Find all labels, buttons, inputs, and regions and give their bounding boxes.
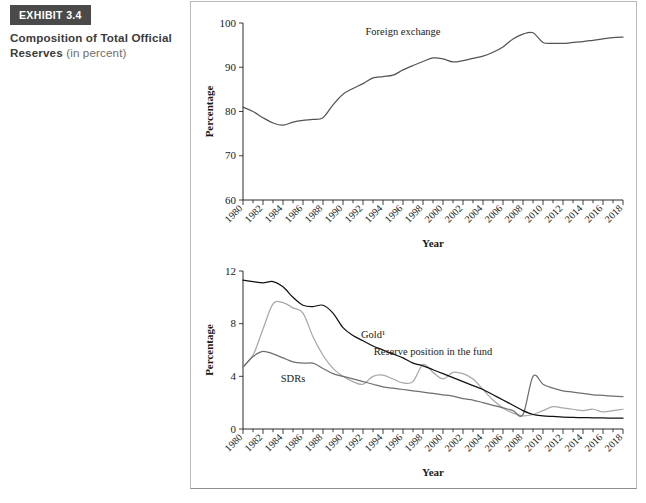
svg-text:4: 4 bbox=[231, 370, 237, 382]
svg-text:Percentage: Percentage bbox=[203, 324, 215, 376]
svg-text:1992: 1992 bbox=[342, 203, 364, 225]
svg-text:Year: Year bbox=[422, 237, 444, 249]
svg-text:2014: 2014 bbox=[562, 432, 584, 454]
svg-text:2000: 2000 bbox=[422, 203, 444, 225]
foreign-exchange-chart-svg: 6070809010019801982198419861988199019921… bbox=[191, 2, 638, 254]
svg-text:2012: 2012 bbox=[542, 203, 564, 225]
svg-text:100: 100 bbox=[220, 17, 237, 29]
svg-text:2000: 2000 bbox=[422, 432, 444, 454]
svg-text:Reserve position in the fund: Reserve position in the fund bbox=[374, 346, 493, 357]
reserves-composition-chart: 0481219801982198419861988199019921994199… bbox=[191, 254, 638, 490]
reserves-composition-chart-svg: 0481219801982198419861988199019921994199… bbox=[191, 254, 638, 490]
svg-text:1986: 1986 bbox=[282, 203, 304, 225]
svg-text:1984: 1984 bbox=[262, 203, 284, 225]
svg-text:1988: 1988 bbox=[302, 432, 324, 454]
figure-frame: 6070809010019801982198419861988199019921… bbox=[190, 1, 637, 489]
svg-text:1996: 1996 bbox=[382, 432, 404, 454]
exhibit-title: Composition of Total Official Reserves (… bbox=[10, 31, 178, 60]
svg-text:2010: 2010 bbox=[522, 203, 544, 225]
svg-text:70: 70 bbox=[225, 149, 237, 161]
svg-text:1990: 1990 bbox=[322, 203, 344, 225]
exhibit-badge: EXHIBIT 3.4 bbox=[10, 5, 91, 25]
svg-text:2010: 2010 bbox=[522, 432, 544, 454]
svg-text:2018: 2018 bbox=[602, 203, 624, 225]
svg-text:2014: 2014 bbox=[562, 203, 584, 225]
svg-text:2018: 2018 bbox=[602, 432, 624, 454]
exhibit-caption-column: EXHIBIT 3.4 Composition of Total Officia… bbox=[0, 0, 182, 503]
svg-text:SDRs: SDRs bbox=[281, 373, 306, 384]
foreign-exchange-chart: 6070809010019801982198419861988199019921… bbox=[191, 2, 638, 254]
svg-text:Foreign exchange: Foreign exchange bbox=[366, 26, 441, 37]
svg-text:Gold¹: Gold¹ bbox=[361, 329, 385, 340]
svg-text:1980: 1980 bbox=[222, 203, 244, 225]
exhibit-title-sub: (in percent) bbox=[66, 46, 126, 59]
svg-text:1984: 1984 bbox=[262, 432, 284, 454]
svg-text:2006: 2006 bbox=[482, 203, 504, 225]
svg-text:1998: 1998 bbox=[402, 432, 424, 454]
svg-text:2004: 2004 bbox=[462, 432, 484, 454]
svg-text:1994: 1994 bbox=[362, 203, 384, 225]
svg-text:2004: 2004 bbox=[462, 203, 484, 225]
svg-text:1996: 1996 bbox=[382, 203, 404, 225]
svg-text:8: 8 bbox=[231, 317, 237, 329]
svg-text:2012: 2012 bbox=[542, 432, 564, 454]
svg-text:1998: 1998 bbox=[402, 203, 424, 225]
svg-text:2008: 2008 bbox=[502, 432, 524, 454]
svg-text:1994: 1994 bbox=[362, 432, 384, 454]
svg-text:2002: 2002 bbox=[442, 432, 464, 454]
svg-text:1988: 1988 bbox=[302, 203, 324, 225]
svg-text:Percentage: Percentage bbox=[203, 86, 215, 138]
svg-text:2016: 2016 bbox=[582, 203, 604, 225]
svg-text:2006: 2006 bbox=[482, 432, 504, 454]
svg-text:1980: 1980 bbox=[222, 432, 244, 454]
svg-text:2002: 2002 bbox=[442, 203, 464, 225]
svg-text:2016: 2016 bbox=[582, 432, 604, 454]
svg-text:1986: 1986 bbox=[282, 432, 304, 454]
svg-text:80: 80 bbox=[225, 105, 237, 117]
svg-text:1992: 1992 bbox=[342, 432, 364, 454]
svg-text:12: 12 bbox=[225, 265, 236, 277]
svg-text:Year: Year bbox=[422, 466, 444, 478]
svg-text:1982: 1982 bbox=[242, 432, 264, 454]
svg-text:2008: 2008 bbox=[502, 203, 524, 225]
svg-text:1990: 1990 bbox=[322, 432, 344, 454]
svg-text:1982: 1982 bbox=[242, 203, 264, 225]
svg-text:90: 90 bbox=[225, 61, 237, 73]
